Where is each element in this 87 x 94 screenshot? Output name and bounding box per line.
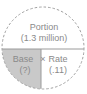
base-value: (?)	[20, 65, 31, 75]
rate-value: (.11)	[49, 65, 67, 75]
rate-label: Rate	[48, 54, 67, 64]
portion-label: Portion	[30, 22, 59, 32]
portion-value: (1.3 million)	[21, 33, 68, 43]
base-label: Base	[13, 54, 34, 64]
percentage-circle-diagram: Portion (1.3 million) Base (?) × Rate (.…	[0, 0, 87, 94]
multiply-operator: ×	[40, 54, 45, 64]
dashed-circle-outline	[2, 7, 84, 89]
